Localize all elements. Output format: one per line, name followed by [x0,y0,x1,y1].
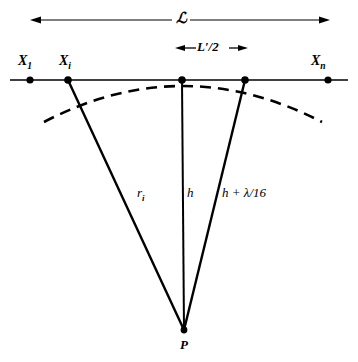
overall-dimension-label: ℒ [176,11,187,26]
label-ray-r-i: ri [137,186,145,202]
label-apex-p: P [180,338,188,351]
node-dot-x-center [178,76,186,84]
node-dot-x-n [324,76,331,83]
label-x-1-main: X [18,53,27,68]
half-segment-dimension-label: L′/2 [197,40,219,53]
antenna-array-geometry-figure: ℒ L′/2 X1 Xi Xn ri h h + λ/16 P [0,0,358,362]
label-x-i: Xi [59,54,71,71]
label-x-n-sub: n [320,61,325,71]
apex-dot-p [181,327,188,334]
ray-h-plus-lambda [184,80,245,330]
label-x-1: X1 [18,54,32,71]
label-x-n-main: X [311,53,320,68]
node-dot-x-right [241,76,249,84]
label-ray-h: h [187,186,194,199]
label-x-i-main: X [59,53,68,68]
figure-canvas [0,0,358,362]
node-dot-x-i [64,76,72,84]
label-ray-h-plus-lambda: h + λ/16 [222,186,266,199]
label-ray-r-i-sub: i [142,193,144,203]
label-x-i-sub: i [68,61,71,71]
node-dot-x-1 [26,76,33,83]
ray-h [182,80,184,330]
label-x-n: Xn [311,54,326,71]
label-x-1-sub: 1 [27,61,32,71]
ray-r-i [68,80,184,330]
